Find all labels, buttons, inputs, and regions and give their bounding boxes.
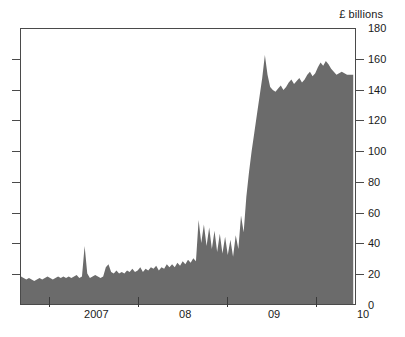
- plot-area: [21, 29, 355, 304]
- y-axis-tick-label: 60: [368, 207, 380, 218]
- x-axis-tick: [227, 297, 228, 307]
- chart-figure: £ billions 020406080100120140160180 2007…: [0, 0, 405, 337]
- x-axis-tick: [49, 297, 50, 307]
- y-axis-tick-left: [12, 213, 20, 214]
- y-axis-tick-right: [356, 59, 364, 60]
- y-axis-tick-right: [356, 120, 364, 121]
- y-axis-tick-left: [12, 243, 20, 244]
- y-axis-tick-right: [356, 182, 364, 183]
- x-axis-tick: [316, 297, 317, 307]
- y-axis-tick-left: [12, 182, 20, 183]
- y-axis-tick-label: 100: [368, 146, 386, 157]
- y-axis-tick-label: 40: [368, 238, 380, 249]
- y-axis-tick-left: [12, 151, 20, 152]
- x-axis-tick: [138, 297, 139, 307]
- y-axis-tick-right: [356, 151, 364, 152]
- y-axis-tick-label: 180: [368, 23, 386, 34]
- x-axis-tick-label: 09: [268, 309, 280, 320]
- x-axis-tick-label: 2007: [84, 309, 108, 320]
- area-series-path: [21, 55, 353, 304]
- y-axis-tick-label: 160: [368, 53, 386, 64]
- y-axis-tick-label: 80: [368, 176, 380, 187]
- y-axis-tick-left: [12, 59, 20, 60]
- y-axis-tick-right: [356, 90, 364, 91]
- x-axis-tick-label: 08: [179, 309, 191, 320]
- y-axis-tick-label: 140: [368, 84, 386, 95]
- y-axis-tick-label: 120: [368, 115, 386, 126]
- y-axis-tick-right: [356, 213, 364, 214]
- area-series-svg: [21, 29, 355, 304]
- y-axis-tick-left: [12, 120, 20, 121]
- y-axis-unit-label: £ billions: [0, 8, 383, 20]
- y-axis-tick-right: [356, 243, 364, 244]
- y-axis-tick-left: [12, 274, 20, 275]
- x-axis-tick-label: 10: [357, 309, 369, 320]
- y-axis-tick-left: [12, 90, 20, 91]
- y-axis-tick-right: [356, 274, 364, 275]
- plot-frame: [20, 28, 356, 305]
- y-axis-tick-label: 20: [368, 269, 380, 280]
